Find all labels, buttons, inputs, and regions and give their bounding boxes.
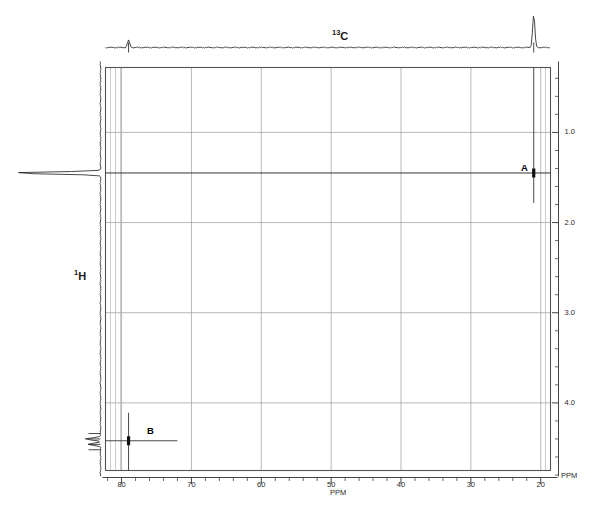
y-tick-label-2.0: 2.0	[565, 219, 575, 227]
cross-peak-label-b: B	[147, 426, 154, 436]
plot-frame	[106, 68, 551, 471]
x-axis-unit-label: PPM	[330, 489, 346, 497]
left-edge-rulings	[111, 68, 546, 471]
carbon-nucleus-label: 13C	[332, 31, 348, 42]
x-axis-unit-label-right: PPM	[561, 472, 577, 480]
carbon-1d-trace	[106, 16, 550, 48]
x-tick-label-30: 30	[459, 481, 483, 489]
proton-projection-trace	[19, 62, 102, 477]
y-tick-label-4.0: 4.0	[565, 399, 575, 407]
y-axis	[552, 62, 559, 477]
plot-border	[106, 68, 551, 471]
x-tick-label-70: 70	[179, 481, 203, 489]
x-tick-label-80: 80	[110, 481, 134, 489]
carbon-projection-trace	[106, 16, 550, 52]
cross-peak-b	[127, 436, 130, 445]
x-tick-label-50: 50	[319, 481, 343, 489]
x-tick-label-60: 60	[249, 481, 273, 489]
proton-nucleus-label: 1H	[74, 271, 86, 282]
nmr-spectrum-figure: 13C 1H A B PPM PPM 80706050403020 1.02.0…	[0, 0, 602, 507]
cross-peak-a	[532, 168, 535, 177]
cross-peak-ridges	[106, 68, 551, 471]
y-tick-label-3.0: 3.0	[565, 309, 575, 317]
x-tick-label-40: 40	[389, 481, 413, 489]
plot-gridlines	[106, 68, 551, 471]
spectrum-canvas	[0, 0, 602, 507]
x-tick-label-20: 20	[529, 481, 553, 489]
proton-1d-trace	[19, 62, 102, 477]
cross-peak-label-a: A	[521, 163, 528, 173]
y-tick-label-1.0: 1.0	[565, 128, 575, 136]
